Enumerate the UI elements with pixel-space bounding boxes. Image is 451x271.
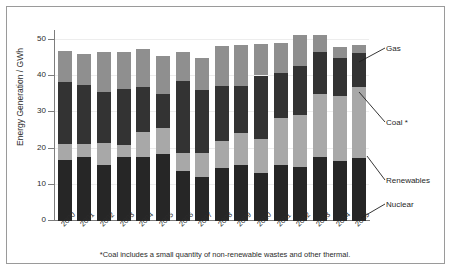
bar-2011 bbox=[274, 43, 288, 221]
bar-2001 bbox=[77, 54, 91, 221]
bar-segment-gas bbox=[97, 52, 111, 92]
bar-segment-coal bbox=[293, 66, 307, 115]
bar-segment-gas bbox=[117, 52, 131, 88]
legend-label-coal: Coal * bbox=[386, 118, 408, 127]
bar-segment-coal bbox=[234, 86, 248, 134]
bar-2000 bbox=[58, 51, 72, 221]
bar-segment-gas bbox=[215, 46, 229, 87]
bar-segment-gas bbox=[313, 35, 327, 52]
bar-segment-renewables bbox=[117, 145, 131, 157]
bar-segment-gas bbox=[274, 43, 288, 73]
bar-2009 bbox=[234, 45, 248, 221]
y-tick bbox=[48, 220, 54, 221]
bar-2007 bbox=[195, 58, 209, 221]
bar-segment-coal bbox=[136, 87, 150, 132]
bar-2014 bbox=[333, 47, 347, 221]
bar-segment-coal bbox=[313, 52, 327, 95]
bar-2003 bbox=[117, 52, 131, 221]
bar-segment-gas bbox=[58, 51, 72, 82]
bar-segment-renewables bbox=[333, 96, 347, 161]
bar-segment-coal bbox=[254, 76, 268, 140]
bar-2010 bbox=[254, 44, 268, 221]
bar-segment-gas bbox=[136, 49, 150, 87]
bar-2013 bbox=[313, 35, 327, 221]
bar-2004 bbox=[136, 49, 150, 221]
bar-segment-gas bbox=[254, 44, 268, 75]
bar-segment-renewables bbox=[293, 115, 307, 166]
y-tick bbox=[48, 111, 54, 112]
y-axis-title-wrap: Energy Generation / GWh bbox=[0, 0, 46, 271]
legend-label-renewables: Renewables bbox=[386, 176, 430, 185]
bar-segment-gas bbox=[195, 58, 209, 90]
bar-segment-gas bbox=[156, 56, 170, 94]
y-tick bbox=[48, 148, 54, 149]
bar-segment-gas bbox=[234, 45, 248, 86]
bar-segment-coal bbox=[333, 58, 347, 96]
bar-segment-gas bbox=[293, 35, 307, 66]
bar-segment-renewables bbox=[195, 153, 209, 177]
bar-segment-coal bbox=[77, 85, 91, 144]
x-axis-tick-labels: 2000200120022003200420052006200720082009… bbox=[55, 222, 371, 252]
bar-2006 bbox=[176, 52, 190, 221]
legend: Gas Coal * Renewables Nuclear bbox=[368, 30, 448, 230]
bar-segment-gas bbox=[77, 54, 91, 85]
bar-segment-coal bbox=[117, 89, 131, 145]
bar-segment-coal bbox=[58, 82, 72, 144]
bar-segment-renewables bbox=[254, 139, 268, 172]
bar-segment-coal bbox=[97, 92, 111, 143]
y-tick bbox=[48, 75, 54, 76]
y-tick bbox=[48, 39, 54, 40]
bar-segment-renewables bbox=[97, 143, 111, 165]
bar-segment-coal bbox=[176, 81, 190, 153]
y-axis-title: Energy Generation / GWh bbox=[15, 17, 25, 177]
bar-segment-gas bbox=[176, 52, 190, 80]
legend-label-nuclear: Nuclear bbox=[386, 200, 414, 209]
bar-segment-gas bbox=[333, 47, 347, 58]
bar-segment-renewables bbox=[136, 132, 150, 157]
bar-segment-coal bbox=[215, 86, 229, 140]
legend-label-gas: Gas bbox=[386, 44, 401, 53]
bar-segment-renewables bbox=[176, 153, 190, 171]
bar-segment-coal bbox=[195, 90, 209, 153]
bar-segment-coal bbox=[156, 94, 170, 127]
bar-segment-coal bbox=[274, 73, 288, 119]
bar-2002 bbox=[97, 52, 111, 221]
bar-segment-renewables bbox=[274, 118, 288, 165]
bar-segment-renewables bbox=[58, 144, 72, 160]
bar-segment-renewables bbox=[313, 94, 327, 156]
chart-figure: 01020304050 Energy Generation / GWh 2000… bbox=[0, 0, 451, 271]
bar-2012 bbox=[293, 35, 307, 221]
bar-segment-renewables bbox=[156, 128, 170, 155]
bar-segment-renewables bbox=[234, 133, 248, 164]
bar-2008 bbox=[215, 46, 229, 221]
y-tick bbox=[48, 184, 54, 185]
bar-2005 bbox=[156, 56, 170, 221]
bar-segment-renewables bbox=[215, 141, 229, 169]
chart-footnote: *Coal includes a small quantity of non-r… bbox=[60, 250, 390, 259]
bar-segment-renewables bbox=[77, 144, 91, 157]
bar-group bbox=[55, 30, 369, 221]
